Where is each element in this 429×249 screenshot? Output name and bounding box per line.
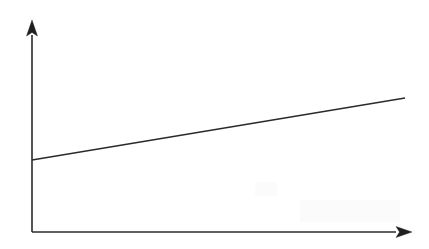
scan-smudge-mid-right bbox=[255, 182, 277, 196]
line-graph-figure bbox=[0, 0, 429, 249]
scan-smudge-lower-right bbox=[300, 200, 400, 222]
figure-canvas bbox=[0, 0, 429, 249]
